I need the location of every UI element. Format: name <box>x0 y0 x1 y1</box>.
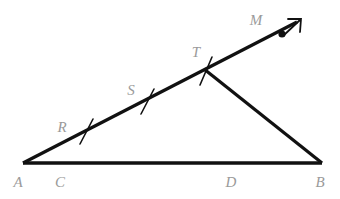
label-point-R: R <box>56 119 66 135</box>
label-point-C: C <box>55 174 66 190</box>
label-point-B: B <box>315 174 324 190</box>
label-point-D: D <box>225 174 237 190</box>
label-point-M: M <box>249 12 264 28</box>
geometry-svg: A C D B R S T M <box>0 0 340 199</box>
segment-TB <box>204 69 322 163</box>
point-M-dot <box>278 30 285 37</box>
label-point-S: S <box>127 82 135 98</box>
geometry-diagram-canvas: A C D B R S T M <box>0 0 340 199</box>
ray-AM-shaft <box>23 22 297 163</box>
label-point-A: A <box>12 174 23 190</box>
label-point-T: T <box>192 44 202 60</box>
